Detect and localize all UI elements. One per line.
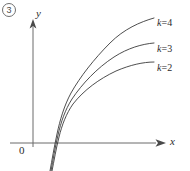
curve-label-k2-value: 2 xyxy=(167,62,172,73)
x-axis-label: x xyxy=(170,136,175,147)
y-axis xyxy=(30,19,37,147)
y-axis-label: y xyxy=(36,8,41,19)
curve-k2 xyxy=(52,62,154,171)
curve-k3 xyxy=(51,43,154,171)
x-axis-arrowhead xyxy=(156,139,167,147)
origin-label: 0 xyxy=(19,145,25,156)
curve-label-k3-value: 3 xyxy=(167,43,172,54)
curve-label-k4-value: 4 xyxy=(167,17,172,28)
curve-label-k4: k=4 xyxy=(157,18,172,28)
figure-container: 3 y x 0 k=4 k=3 k=2 xyxy=(0,0,190,171)
curve-k4 xyxy=(50,18,154,171)
curve-label-k2: k=2 xyxy=(157,63,172,73)
curve-label-k3: k=3 xyxy=(157,44,172,54)
figure-number-badge: 3 xyxy=(2,3,16,17)
curve-group xyxy=(50,18,154,171)
